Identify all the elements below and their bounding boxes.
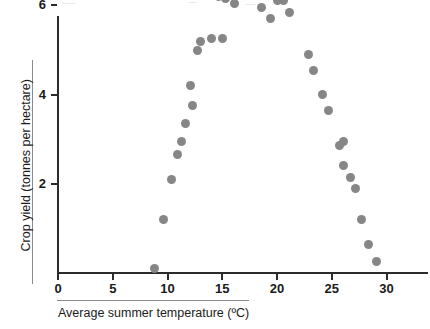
x-tick-label: 15 xyxy=(215,282,229,295)
chart-figure: 246 051015202530 Crop yield (tonnes per … xyxy=(0,0,430,329)
scatter-point xyxy=(346,173,355,182)
scatter-point xyxy=(318,90,327,99)
scatter-point xyxy=(188,101,197,110)
scatter-point xyxy=(335,141,344,150)
scatter-point xyxy=(218,34,227,43)
top-clipped-artifact xyxy=(188,2,197,3)
x-tick-label: 25 xyxy=(325,282,339,295)
scatter-point xyxy=(159,215,168,224)
scatter-point xyxy=(181,119,190,128)
scatter-point xyxy=(266,14,275,23)
x-tick-mark xyxy=(386,274,388,280)
scatter-point xyxy=(339,161,348,170)
x-tick-mark xyxy=(331,274,333,280)
scatter-point xyxy=(230,0,239,8)
scatter-point xyxy=(167,175,176,184)
x-tick-label: 30 xyxy=(379,282,393,295)
x-tick-mark xyxy=(112,274,114,280)
x-tick-mark xyxy=(57,274,59,280)
y-tick-mark xyxy=(51,4,57,6)
top-clipped-artifact xyxy=(246,4,256,5)
x-tick-mark xyxy=(221,274,223,280)
y-axis-line xyxy=(57,16,59,274)
scatter-point xyxy=(351,184,360,193)
x-axis-title-group: Average summer temperature (ºC) xyxy=(57,300,317,328)
y-tick-mark xyxy=(51,94,57,96)
y-tick-label: 6 xyxy=(0,0,46,11)
scatter-point xyxy=(324,106,333,115)
top-clipped-artifact xyxy=(62,3,76,4)
scatter-point xyxy=(207,34,216,43)
scatter-point xyxy=(339,137,348,146)
x-tick-mark xyxy=(167,274,169,280)
scatter-point xyxy=(279,0,288,5)
scatter-point xyxy=(309,66,318,75)
x-tick-label: 20 xyxy=(270,282,284,295)
scatter-point xyxy=(214,0,223,1)
scatter-point xyxy=(364,240,373,249)
scatter-point xyxy=(372,257,381,266)
x-tick-label: 10 xyxy=(160,282,174,295)
x-tick-mark xyxy=(276,274,278,280)
scatter-point xyxy=(173,150,182,159)
scatter-point xyxy=(221,0,230,3)
scatter-point xyxy=(177,137,186,146)
scatter-point xyxy=(357,215,366,224)
scatter-point xyxy=(257,3,266,12)
x-tick-label: 5 xyxy=(109,282,116,295)
x-axis-title-rule xyxy=(57,300,249,301)
scatter-point xyxy=(196,37,205,46)
y-axis-title-group: Crop yield (tonnes per hectare) xyxy=(2,60,36,285)
scatter-point xyxy=(285,8,294,17)
scatter-point xyxy=(186,81,195,90)
x-tick-label: 0 xyxy=(54,282,61,295)
y-tick-mark xyxy=(51,183,57,185)
scatter-points-layer xyxy=(0,0,430,329)
scatter-point xyxy=(304,50,313,59)
x-axis-title: Average summer temperature (ºC) xyxy=(58,307,249,320)
y-axis-title: Crop yield (tonnes per hectare) xyxy=(20,53,33,277)
scatter-point xyxy=(193,46,202,55)
scatter-point xyxy=(273,0,282,5)
